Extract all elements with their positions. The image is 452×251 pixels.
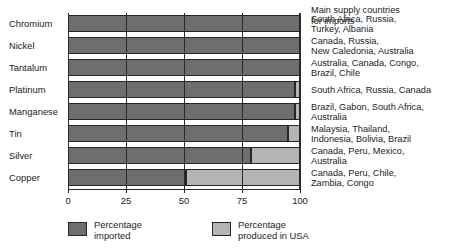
- bar-row: [68, 169, 300, 186]
- legend-label-line: Percentage: [238, 220, 309, 231]
- x-tick-50: [184, 189, 185, 193]
- legend-swatch: [68, 222, 87, 236]
- category-label-silver: Silver: [0, 151, 59, 161]
- annotation-line: Canada, Russia,: [311, 36, 452, 46]
- category-label-chromium: Chromium: [0, 19, 59, 29]
- annotation-line: Canada, Peru, Chile,: [311, 168, 452, 178]
- bar-row: [68, 103, 300, 120]
- bar-row: [68, 37, 300, 54]
- annotation-line: Australia: [311, 112, 452, 122]
- chart-legend: PercentageimportedPercentageproduced in …: [0, 221, 452, 251]
- x-tick-75: [242, 189, 243, 193]
- annotation-line: Brazil, Gabon, South Africa,: [311, 102, 452, 112]
- bar-row: [68, 15, 300, 32]
- bar-segment-imported: [68, 147, 251, 164]
- legend-swatch: [212, 222, 231, 236]
- category-label-tantalum: Tantalum: [0, 63, 59, 73]
- annotation-line: Malaysia, Thailand,: [311, 124, 452, 134]
- category-label-copper: Copper: [0, 173, 59, 183]
- bar-segment-imported: [68, 125, 288, 142]
- bar-segment-imported: [68, 81, 295, 98]
- bar-segment-imported: [68, 15, 300, 32]
- imports-stacked-bar-chart: ChromiumNickelTantalumPlatinumManganeseT…: [0, 0, 452, 251]
- annotation-line: Zambia, Congo: [311, 178, 452, 188]
- annotation-header-line: Main supply countries: [311, 5, 451, 16]
- legend-label: Percentageproduced in USA: [238, 220, 309, 241]
- x-tick-label: 100: [292, 195, 308, 206]
- bar-segment-produced-usa: [295, 81, 300, 98]
- x-tick-label: 0: [65, 195, 70, 206]
- x-tick-label: 25: [121, 195, 131, 206]
- bar-segment-imported: [68, 59, 300, 76]
- category-label-manganese: Manganese: [0, 107, 59, 117]
- bar-segment-produced-usa: [186, 169, 300, 186]
- bar-segment-imported: [68, 169, 186, 186]
- x-tick-100: [300, 189, 301, 193]
- gridline-100: [300, 13, 301, 189]
- x-tick-label: 75: [237, 195, 247, 206]
- bar-segment-produced-usa: [251, 147, 300, 164]
- annotation-line: Canada, Peru, Mexico,: [311, 146, 452, 156]
- annotation-line: Australia, Canada, Congo,: [311, 58, 452, 68]
- annotation-line: Brazil, Chile: [311, 68, 452, 78]
- legend-label: Percentageimported: [94, 220, 142, 241]
- supply-countries-silver: Canada, Peru, Mexico,Australia: [311, 146, 452, 167]
- x-tick-0: [68, 189, 69, 193]
- annotation-line: New Caledonia, Australia: [311, 46, 452, 56]
- annotation-line: South Africa, Russia, Canada: [311, 85, 452, 95]
- bar-row: [68, 59, 300, 76]
- bar-segment-imported: [68, 103, 295, 120]
- supply-countries-platinum: South Africa, Russia, Canada: [311, 85, 452, 95]
- annotation-line: Indonesia, Bolivia, Brazil: [311, 134, 452, 144]
- legend-label-line: Percentage: [94, 220, 142, 231]
- bar-row: [68, 125, 300, 142]
- supply-countries-tin: Malaysia, Thailand,Indonesia, Bolivia, B…: [311, 124, 452, 145]
- category-axis-labels: ChromiumNickelTantalumPlatinumManganeseT…: [0, 13, 64, 189]
- x-tick-25: [126, 189, 127, 193]
- supply-countries-nickel: Canada, Russia,New Caledonia, Australia: [311, 36, 452, 57]
- category-label-platinum: Platinum: [0, 85, 59, 95]
- supply-countries-tantalum: Australia, Canada, Congo,Brazil, Chile: [311, 58, 452, 79]
- x-tick-label: 50: [179, 195, 189, 206]
- supply-countries-manganese: Brazil, Gabon, South Africa,Australia: [311, 102, 452, 123]
- annotation-header-line: for imports: [311, 16, 451, 27]
- legend-label-line: imported: [94, 231, 142, 242]
- supply-countries-copper: Canada, Peru, Chile,Zambia, Congo: [311, 168, 452, 189]
- bar-row: [68, 81, 300, 98]
- bar-segment-imported: [68, 37, 300, 54]
- annotation-line: Australia: [311, 156, 452, 166]
- legend-label-line: produced in USA: [238, 231, 309, 242]
- bar-segment-produced-usa: [295, 103, 300, 120]
- annotations-header: Main supply countriesfor imports: [311, 5, 451, 27]
- category-label-tin: Tin: [0, 129, 59, 139]
- bar-segment-produced-usa: [288, 125, 300, 142]
- bar-row: [68, 147, 300, 164]
- category-label-nickel: Nickel: [0, 41, 59, 51]
- plot-area: [68, 13, 300, 189]
